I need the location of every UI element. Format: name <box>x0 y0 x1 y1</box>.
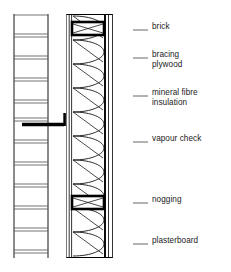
label-bracing-plywood: bracing plywood <box>152 50 182 71</box>
label-vapour-check: vapour check <box>152 134 201 144</box>
label-nogging: nogging <box>152 195 182 205</box>
internal-lining-layers <box>105 14 113 258</box>
nogging-blocks <box>72 22 104 209</box>
brick-courses <box>14 15 48 253</box>
mineral-fibre-insulation <box>73 16 104 256</box>
wall-section-diagram: brick bracing plywood mineral fibre insu… <box>0 0 231 272</box>
brick-outer-leaf <box>14 14 48 258</box>
wall-tie <box>22 113 65 126</box>
sheathing-layers <box>67 14 72 258</box>
leader-lines <box>133 30 148 244</box>
label-mineral-fibre-insulation: mineral fibre insulation <box>152 88 198 109</box>
label-brick: brick <box>152 22 170 32</box>
label-plasterboard: plasterboard <box>152 236 198 246</box>
